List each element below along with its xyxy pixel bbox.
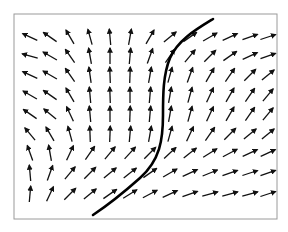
vector-field-diagram — [0, 0, 288, 232]
field-arrow — [110, 87, 111, 103]
field-arrow — [110, 126, 111, 142]
field-arrow — [90, 126, 91, 142]
field-arrow — [130, 106, 131, 122]
field-arrow — [110, 67, 111, 83]
field-arrow — [130, 67, 131, 83]
